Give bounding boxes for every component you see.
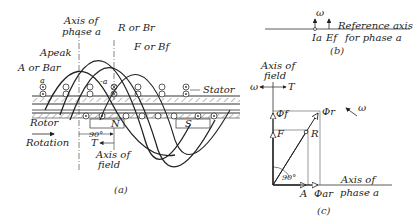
conductor-a-label: a (40, 76, 45, 85)
a-label: A (299, 188, 307, 199)
omega-label: ω (316, 7, 324, 18)
conductor-neg-a-label: -a (100, 77, 108, 86)
axis-phase-label: Axis of (340, 174, 377, 185)
rotation-arrow (346, 108, 357, 116)
axis-field-label-2: field (97, 159, 120, 170)
s-pole (176, 119, 210, 128)
figure-c: Axis of field ω T 90° Φf Φr F R A Φar ω … (250, 60, 392, 216)
phi-f-label: Φf (276, 108, 290, 119)
axis-phase-a-label-2: phase a (62, 26, 101, 37)
f-label: F (276, 128, 285, 139)
axis-phase-label-2: phase a (340, 187, 379, 198)
synchronous-machine-diagram: N S Axis of phase a R or Br F or Bf Apea… (0, 0, 415, 222)
stator-label: Stator (203, 84, 236, 95)
r-or-br-label: R or Br (117, 22, 156, 33)
r-phasor-tip (304, 130, 308, 134)
f-or-bf-label: F or Bf (133, 41, 171, 52)
a-or-bar-label: A or Bar (17, 62, 62, 73)
axis-phase-a-label: Axis of (63, 15, 100, 26)
axis-field-label-2: field (263, 70, 286, 81)
phi-r-label: Φr (322, 106, 336, 117)
omega-rot-label: ω (358, 102, 366, 113)
caption-b: (b) (330, 45, 344, 56)
n-pole-label: N (110, 118, 121, 129)
ef-label: Ef (325, 32, 339, 43)
figure-a: N S Axis of phase a R or Br F or Bf Apea… (17, 15, 240, 195)
caption-a: (a) (114, 184, 128, 195)
figure-b: ω Ia Ef Reference axis for phase a (b) (265, 7, 413, 56)
a-peak-label: Apeak (39, 47, 72, 58)
rotor-label: Rotor (29, 117, 60, 128)
caption-c: (c) (317, 205, 331, 216)
omega-left-label: ω (250, 81, 258, 92)
phi-ar-label: Φar (314, 188, 334, 199)
torque-label: T (288, 81, 296, 92)
reference-axis-label: Reference axis (337, 20, 413, 31)
angle-label: 90° (282, 173, 296, 182)
rotation-label: Rotation (25, 137, 69, 148)
ia-label: Ia (311, 32, 322, 43)
reference-axis-label-2: for phase a (344, 32, 402, 43)
r-label: R (310, 128, 319, 139)
